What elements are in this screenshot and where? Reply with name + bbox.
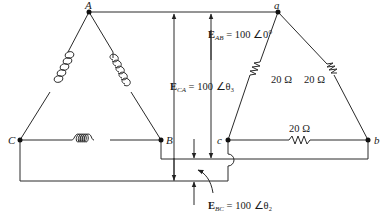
label-resistor-a-b: 20 Ω (304, 75, 325, 86)
node-label-b: b (374, 135, 380, 146)
label-resistor-c-b: 20 Ω (289, 124, 310, 135)
node-C-dot (18, 138, 23, 143)
resistor-c-b (228, 136, 368, 144)
coil-C-B (20, 134, 161, 142)
node-label-c: c (217, 135, 222, 146)
node-label-a: a (274, 0, 280, 11)
node-c-dot (226, 138, 231, 143)
node-label-B: B (166, 135, 173, 146)
coil-A-B (89, 12, 161, 140)
coil-A-C (20, 12, 89, 140)
node-b-dot (366, 138, 371, 143)
node-label-A: A (85, 0, 92, 11)
label-E-BC: EBC = 100 ∠θ₂ (208, 201, 272, 213)
label-E-AB: EAB = 100 ∠0° (208, 30, 273, 42)
wire-B-b (161, 140, 368, 159)
node-B-dot (159, 138, 164, 143)
label-resistor-a-c: 20 Ω (271, 75, 292, 86)
wire-C-c (20, 140, 228, 181)
label-E-CA: ECA = 100 ∠θ₃ (170, 82, 234, 94)
circuit-diagram (0, 0, 386, 222)
wire-crossover-hop (228, 154, 234, 166)
node-label-C: C (8, 135, 15, 146)
